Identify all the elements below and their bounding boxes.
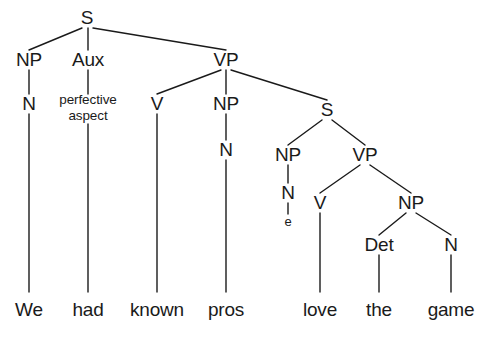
np-emb-obj-to-n [416, 213, 451, 235]
syntax-tree-figure: S NP Aux VP N perfective aspect V NP S N… [0, 0, 498, 338]
terminal-word: game [428, 300, 475, 319]
vp-main-to-v [157, 70, 221, 94]
terminal-word: love [303, 300, 337, 319]
s-root-to-np-subj [29, 28, 82, 50]
terminal-word: known [130, 300, 184, 319]
node-n-embedded-subject: N [281, 183, 295, 202]
node-det: Det [365, 235, 394, 254]
vp-emb-to-v [320, 165, 360, 193]
node-np-embedded-object: NP [398, 193, 424, 212]
terminal-word: had [72, 300, 103, 319]
node-s-root: S [81, 8, 93, 27]
aux-feature-line-1: perfective [59, 92, 117, 108]
np-emb-obj-to-det [379, 213, 406, 235]
terminal-word: the [366, 300, 392, 319]
node-np-subject: NP [16, 50, 42, 69]
s-embedded-to-vp [332, 120, 365, 145]
node-s-embedded: S [321, 100, 333, 119]
node-n-embedded-object: N [444, 235, 458, 254]
node-aux: Aux [72, 50, 104, 69]
vp-emb-to-np [370, 165, 411, 193]
s-embedded-to-np [288, 120, 322, 145]
node-vp-main: VP [214, 50, 239, 69]
node-v-main: V [151, 94, 163, 113]
node-np-embedded-subject: NP [275, 145, 301, 164]
node-empty-category-e: e [284, 215, 291, 228]
s-root-to-vp-main [93, 28, 226, 50]
node-v-embedded: V [314, 193, 326, 212]
node-np-object: NP [213, 94, 239, 113]
terminal-word: We [15, 300, 43, 319]
node-vp-embedded: VP [353, 145, 378, 164]
node-n-subject: N [22, 94, 36, 113]
vp-main-to-s-embedded [231, 70, 327, 100]
node-aux-feature: perfective aspect [59, 92, 117, 124]
node-n-object: N [219, 140, 233, 159]
aux-feature-line-2: aspect [59, 108, 117, 124]
terminal-word: pros [208, 300, 244, 319]
